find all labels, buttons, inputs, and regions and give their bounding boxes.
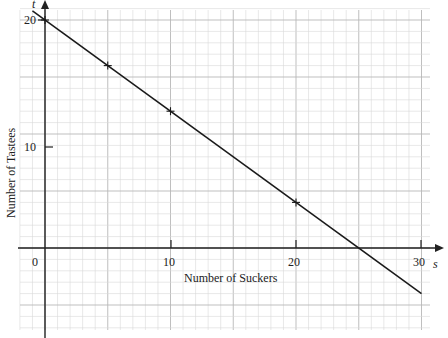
x-tick-label-20: 20 <box>288 255 300 269</box>
y-axis-arrow-icon <box>41 0 49 9</box>
y-axis-title: Number of Tastees <box>4 127 18 218</box>
y-tick-label-10: 10 <box>24 140 36 154</box>
x-tick-label-30: 30 <box>413 255 425 269</box>
x-axis-title: Number of Suckers <box>184 271 278 285</box>
y-tick-label-20: 20 <box>24 13 36 27</box>
data-line <box>32 11 421 294</box>
x-tick-label-10: 10 <box>163 255 175 269</box>
line-chart: 0 10 20 30 s 10 20 t Number of Suckers N… <box>0 0 448 338</box>
x-axis-arrow-icon <box>435 244 444 252</box>
y-axis-symbol: t <box>32 0 36 11</box>
origin-label: 0 <box>32 255 38 269</box>
x-axis-symbol: s <box>433 257 438 271</box>
